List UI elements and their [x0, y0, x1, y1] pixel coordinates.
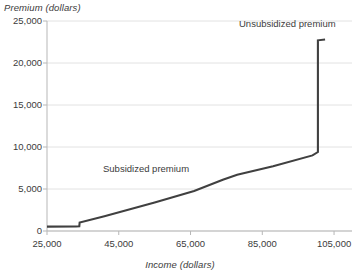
x-axis-tick-label: 105,000 [304, 238, 360, 249]
y-axis-tick-label: 10,000 [0, 141, 42, 152]
y-axis-tick-label: 5,000 [0, 183, 42, 194]
annotation-subsidized-premium: Subsidized premium [103, 163, 189, 174]
x-axis-tick-label: 85,000 [232, 238, 292, 249]
gridlines [47, 21, 352, 231]
y-axis-tick-label: 15,000 [0, 99, 42, 110]
y-axis-tick-label: 0 [0, 225, 42, 236]
axis-ticks [43, 21, 334, 235]
data-series [47, 39, 325, 226]
series-line [47, 39, 325, 226]
y-axis-tick-label: 20,000 [0, 57, 42, 68]
y-axis-tick-label: 25,000 [0, 15, 42, 26]
x-axis-tick-label: 25,000 [17, 238, 77, 249]
x-axis-title: Income (dollars) [0, 259, 360, 270]
premium-vs-income-chart: Premium (dollars) 05,00010,00015,00020,0… [0, 0, 360, 273]
plot-area [0, 0, 360, 273]
axis-lines [47, 21, 352, 231]
x-axis-tick-label: 65,000 [161, 238, 221, 249]
x-axis-tick-label: 45,000 [89, 238, 149, 249]
annotation-unsubsidized-premium: Unsubsidized premium [239, 18, 336, 29]
